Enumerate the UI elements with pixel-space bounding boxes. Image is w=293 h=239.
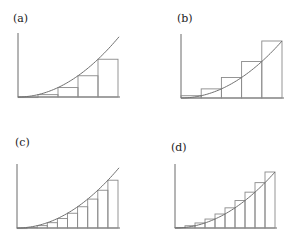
riemann-rectangle (205, 219, 215, 228)
parabola-curve (181, 41, 282, 98)
riemann-rectangle (47, 223, 57, 228)
panel-a-plot (18, 33, 120, 98)
axes (17, 164, 120, 228)
riemann-sum-figure: (a) (b) (c) (d) (0, 0, 293, 239)
parabola-curve (17, 168, 119, 228)
riemann-rectangle (57, 219, 67, 228)
riemann-rectangle (255, 183, 265, 228)
riemann-rectangle (88, 199, 98, 228)
panel-label-d: (d) (171, 141, 187, 154)
riemann-rectangle (68, 213, 78, 228)
riemann-rectangle (245, 192, 255, 228)
riemann-rectangle (98, 190, 108, 228)
panel-d: (d) (171, 141, 277, 228)
riemann-rectangle (78, 207, 88, 228)
panel-c: (c) (15, 136, 120, 229)
axes (181, 34, 284, 98)
riemann-rectangle (37, 226, 47, 228)
panel-a: (a) (13, 12, 120, 98)
riemann-rectangle (262, 41, 282, 98)
panel-b-plot (181, 34, 284, 98)
panel-d-plot (175, 164, 277, 228)
panel-c-plot (17, 164, 120, 229)
riemann-rectangle (242, 62, 262, 98)
riemann-rectangle (58, 88, 78, 97)
panel-label-c: (c) (15, 136, 30, 149)
axes (175, 164, 277, 228)
riemann-rectangle (38, 95, 58, 97)
panel-label-b: (b) (177, 12, 193, 25)
riemann-rectangle (78, 76, 98, 97)
riemann-rectangle (108, 180, 118, 228)
panel-b: (b) (177, 12, 284, 98)
panel-label-a: (a) (13, 12, 28, 25)
riemann-rectangle (98, 59, 118, 97)
